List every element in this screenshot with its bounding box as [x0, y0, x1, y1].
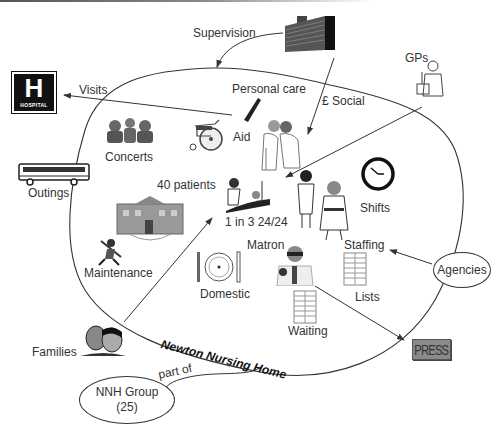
plate-cutlery-icon	[195, 248, 243, 286]
agencies-node: Agencies	[433, 252, 491, 288]
handyman-icon	[95, 237, 125, 267]
nnh-group-label: NNH Group	[96, 385, 159, 400]
personal-care-label: Personal care	[232, 82, 306, 96]
nnh-group-count: (25)	[116, 400, 137, 415]
domestic-label: Domestic	[200, 287, 250, 301]
waiting-label: Waiting	[288, 324, 328, 338]
wheelchair-icon	[185, 118, 225, 152]
list-table-icon	[343, 252, 367, 286]
visits-label: Visits	[79, 83, 107, 97]
visits-arrow	[64, 95, 232, 115]
press-icon: PRESS	[412, 339, 451, 360]
choir-icon	[105, 118, 155, 144]
nurses-icon	[292, 166, 352, 246]
staffing-label: Staffing	[344, 238, 384, 252]
hospital-sign-icon: H HOSPITAL	[12, 72, 56, 113]
aid-label: Aid	[233, 130, 250, 144]
matron-label: Matron	[247, 238, 284, 252]
families-label: Families	[32, 345, 77, 359]
patient-bed-icon	[222, 175, 272, 215]
families-faces-icon	[78, 322, 128, 358]
gps-label: GPs	[405, 51, 428, 65]
maintenance-label: Maintenance	[84, 266, 153, 280]
outings-label: Outings	[28, 186, 69, 200]
bus-icon	[18, 162, 90, 186]
agencies-label: Agencies	[437, 263, 486, 278]
hospital-letter: H	[14, 74, 54, 102]
nnh-group-node: NNH Group (25)	[79, 376, 175, 424]
office-building-icon	[283, 12, 338, 54]
lists-label: Lists	[355, 290, 380, 304]
shifts-label: Shifts	[360, 201, 390, 215]
ratio-label: 1 in 3 24/24	[225, 215, 288, 229]
supervision-label: Supervision	[193, 26, 256, 40]
concerts-label: Concerts	[105, 150, 153, 164]
press-text: PRESS	[415, 342, 449, 358]
carers-icon	[256, 118, 306, 173]
clock-icon	[360, 156, 396, 192]
house-icon	[115, 194, 185, 246]
hospital-text: HOSPITAL	[14, 102, 54, 108]
list-table-icon	[293, 290, 317, 324]
patients-label: 40 patients	[157, 178, 216, 192]
agencies-arrow	[390, 250, 432, 264]
social-label: £ Social	[322, 94, 365, 108]
